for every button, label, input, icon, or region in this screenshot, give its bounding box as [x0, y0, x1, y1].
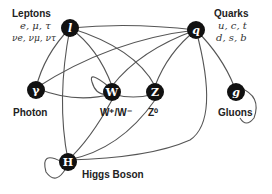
- leptons-line1: e, μ, τ: [20, 20, 51, 31]
- svg-text:g: g: [232, 86, 240, 99]
- svg-text:W: W: [105, 86, 119, 99]
- node-quark: q: [187, 21, 205, 39]
- leptons-label: Leptons: [12, 8, 51, 19]
- quarks-label: Quarks: [214, 8, 249, 19]
- leptons-line2: νe, νμ, ντ: [12, 33, 57, 43]
- quarks-line2: d, s, b: [216, 32, 247, 43]
- node-w-boson: W: [103, 83, 121, 101]
- node-z-boson: Z: [146, 83, 164, 101]
- node-photon: γ: [27, 81, 45, 99]
- z-boson-label: Z⁰: [148, 107, 158, 118]
- edge-q-W: [112, 30, 196, 86]
- node-higgs: H: [59, 153, 77, 171]
- photon-label: Photon: [13, 107, 47, 118]
- gluons-label: Gluons: [218, 107, 253, 118]
- svg-text:H: H: [63, 156, 73, 169]
- svg-text:Z: Z: [151, 86, 159, 99]
- svg-text:q: q: [192, 24, 200, 37]
- node-lepton: l: [61, 19, 79, 37]
- quarks-line1: u, c, t: [218, 20, 248, 31]
- svg-text:γ: γ: [32, 84, 40, 97]
- node-gluon: g: [227, 83, 245, 101]
- edge-l-W: [70, 28, 112, 86]
- svg-text:l: l: [68, 22, 72, 35]
- w-boson-label: W⁺/W⁻: [100, 107, 132, 118]
- edge-l-H: [62, 28, 70, 160]
- edge-l-q: [70, 25, 196, 30]
- edge-q-H: [68, 30, 207, 160]
- higgs-label: Higgs Boson: [82, 169, 144, 180]
- particle-interaction-diagram: Leptons e, μ, τ νe, νμ, ντ Quarks u, c, …: [0, 0, 272, 194]
